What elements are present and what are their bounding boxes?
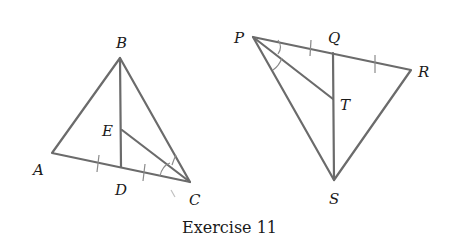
- figure-triangle-prs: P Q R T S: [233, 29, 429, 208]
- angle-arc-ecb: [172, 155, 176, 165]
- segment-qs: [333, 53, 334, 180]
- faint-mark-c: [171, 190, 175, 197]
- segment-bd: [120, 58, 121, 167]
- vertex-label-b: B: [115, 34, 127, 52]
- vertex-label-r: R: [417, 63, 429, 81]
- vertex-label-q: Q: [328, 29, 340, 47]
- geometry-diagram: B A E D C P Q R T S: [0, 0, 459, 247]
- vertex-label-s: S: [329, 190, 339, 208]
- vertex-label-d: D: [114, 181, 127, 199]
- vertex-label-t: T: [340, 96, 351, 114]
- tick-mark-pq: [310, 40, 311, 56]
- angle-arc-tps: [273, 58, 282, 70]
- vertex-label-e: E: [101, 122, 113, 140]
- vertex-label-c: C: [189, 191, 201, 209]
- figure-caption: Exercise 11: [0, 218, 459, 237]
- vertex-label-a: A: [31, 161, 44, 179]
- vertex-label-p: P: [233, 29, 245, 47]
- figure-triangle-abc: B A E D C: [31, 34, 201, 209]
